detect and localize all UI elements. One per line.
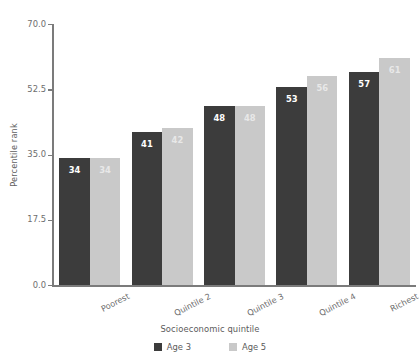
y-axis-tick-label: 70.0 — [0, 19, 46, 29]
bar[interactable]: 34 — [90, 158, 121, 285]
bar-value-label: 61 — [379, 65, 410, 75]
y-axis-tick-mark — [48, 155, 52, 156]
bar-value-label: 34 — [59, 165, 90, 175]
bar[interactable]: 34 — [59, 158, 90, 285]
bar[interactable]: 61 — [379, 58, 410, 285]
legend-label: Age 3 — [167, 342, 191, 352]
legend-label: Age 5 — [242, 342, 266, 352]
bar[interactable]: 48 — [235, 106, 266, 285]
bar[interactable]: 53 — [276, 87, 307, 285]
bar-group: 5356 — [276, 24, 337, 285]
bar-group: 5761 — [349, 24, 410, 285]
y-axis-tick-mark — [48, 24, 52, 25]
y-axis-tick-label: 0.0 — [0, 280, 46, 290]
bar-value-label: 57 — [349, 79, 380, 89]
bar-group: 3434 — [59, 24, 120, 285]
bar-value-label: 48 — [235, 113, 266, 123]
x-axis-tick-label: Richest — [389, 291, 420, 314]
bar[interactable]: 56 — [307, 76, 338, 285]
y-axis-tick-label: 17.5 — [0, 214, 46, 224]
bar[interactable]: 42 — [162, 128, 193, 285]
bar-value-label: 34 — [90, 165, 121, 175]
legend-swatch — [229, 343, 237, 351]
plot-area: 34344142484853565761 — [54, 24, 416, 285]
x-axis-tick-label: Quintile 4 — [317, 291, 357, 318]
x-axis-line — [52, 285, 416, 287]
y-axis-tick-label: 35.0 — [0, 149, 46, 159]
bar-value-label: 48 — [204, 113, 235, 123]
y-axis-tick-label: 52.5 — [0, 84, 46, 94]
x-axis-tick-label: Quintile 3 — [245, 291, 285, 318]
bar-chart: Percentile rank 0.017.535.052.570.0 3434… — [0, 0, 420, 355]
bar[interactable]: 41 — [132, 132, 163, 285]
legend-swatch — [154, 343, 162, 351]
bar[interactable]: 57 — [349, 72, 380, 285]
bar-value-label: 53 — [276, 94, 307, 104]
bar-value-label: 41 — [132, 139, 163, 149]
y-axis-tick-mark — [48, 220, 52, 221]
bar[interactable]: 48 — [204, 106, 235, 285]
legend-item[interactable]: Age 5 — [229, 342, 266, 352]
legend-item[interactable]: Age 3 — [154, 342, 191, 352]
y-axis-tick-mark — [48, 89, 52, 90]
x-axis-title: Socioeconomic quintile — [0, 324, 420, 334]
legend: Age 3Age 5 — [0, 342, 420, 352]
x-axis-tick-label: Poorest — [99, 291, 131, 314]
bar-group: 4142 — [132, 24, 193, 285]
x-axis-tick-label: Quintile 2 — [173, 291, 213, 318]
bar-value-label: 56 — [307, 83, 338, 93]
bar-value-label: 42 — [162, 135, 193, 145]
bar-group: 4848 — [204, 24, 265, 285]
